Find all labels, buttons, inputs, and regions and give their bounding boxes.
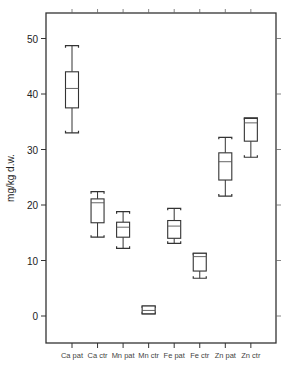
x-tick-label: Fe pat [164, 351, 186, 360]
iqr-box [66, 72, 79, 108]
box-plot-chart: 01020304050 Ca patCa ctrMn patMn ctrFe p… [0, 0, 290, 367]
boxes [66, 46, 258, 314]
x-tick-label: Ca pat [61, 351, 84, 360]
box-zn-pat [219, 137, 232, 196]
box-ca-pat [66, 46, 79, 133]
box-mn-pat [117, 212, 130, 249]
iqr-box [244, 118, 257, 141]
box-mn-ctr [142, 306, 155, 314]
box-ca-ctr [91, 192, 104, 238]
y-tick-label: 10 [27, 256, 39, 267]
x-tick-label: Ca ctr [88, 351, 109, 360]
box-fe-pat [168, 208, 181, 243]
iqr-box [193, 253, 206, 271]
box-fe-ctr [193, 253, 206, 278]
x-tick-label: Mn pat [112, 351, 136, 360]
iqr-box [219, 153, 232, 180]
x-tick-label: Fe ctr [190, 351, 210, 360]
x-tick-label: Zn pat [215, 351, 237, 360]
iqr-box [117, 222, 130, 237]
y-axis-label: mg/kg d.w. [5, 154, 16, 202]
y-tick-label: 0 [32, 311, 38, 322]
x-tick-label: Mn ctr [138, 351, 159, 360]
x-axis: Ca patCa ctrMn patMn ctrFe patFe ctrZn p… [61, 9, 261, 360]
plot-border [46, 13, 276, 343]
box-zn-ctr [244, 118, 257, 157]
y-tick-label: 30 [27, 145, 39, 156]
y-tick-label: 40 [27, 89, 39, 100]
iqr-box [142, 306, 155, 314]
plot-frame [46, 13, 276, 343]
iqr-box [168, 221, 181, 239]
y-tick-label: 20 [27, 200, 39, 211]
y-tick-label: 50 [27, 34, 39, 45]
x-tick-label: Zn ctr [241, 351, 261, 360]
